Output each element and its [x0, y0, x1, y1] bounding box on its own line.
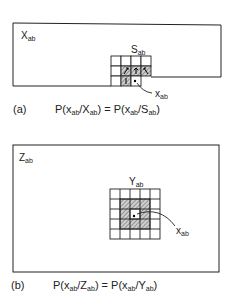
panel-b-tag: (b)	[11, 280, 24, 291]
window-s-label: Sab	[131, 45, 145, 56]
window-y-grid	[110, 189, 160, 239]
region-z-label: Zab	[19, 153, 33, 164]
panel-b-equation: P(xab/Zab) = P(xab/Yab)	[53, 280, 157, 292]
current-pixel-dot-a	[134, 80, 136, 82]
panel-a-tag: (a)	[13, 104, 26, 115]
panel-a-equation: P(xab/Xab) = P(xab/Sab)	[55, 104, 160, 116]
window-y-label: Yab	[129, 177, 143, 188]
diagram-canvas	[0, 0, 229, 298]
region-x-label: Xab	[21, 31, 35, 42]
pixel-x-label-a: xab	[155, 89, 168, 100]
window-s-grid	[111, 56, 151, 86]
current-pixel-dot-b	[133, 215, 135, 217]
pixel-x-label-b: xab	[176, 226, 189, 237]
